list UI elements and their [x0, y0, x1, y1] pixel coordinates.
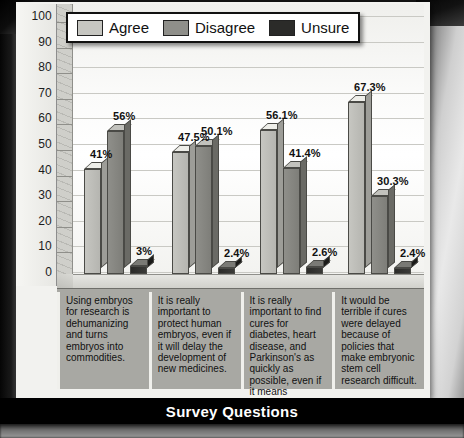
category-label-3: It is really important to find cures for…: [241, 292, 333, 389]
chart-plate: 1009080706050403020100 41%56%3%47.5%50.1…: [16, 2, 430, 398]
legend-item-unsure[interactable]: Unsure: [269, 19, 349, 36]
legend-item-agree[interactable]: Agree: [77, 19, 149, 36]
bar-front-face: [306, 267, 323, 274]
category-label-4: It would be terrible if cures were delay…: [332, 292, 424, 389]
bar-unsure-group-3[interactable]: [306, 267, 323, 274]
bar-unsure-group-2[interactable]: [218, 268, 235, 274]
bar-side-face: [212, 134, 219, 268]
page-left-shadow: [0, 0, 16, 398]
bar-disagree-group-3[interactable]: [283, 168, 300, 274]
bar-disagree-group-4[interactable]: [371, 196, 388, 274]
category-label-band: Using embryos for research is dehumanizi…: [57, 288, 424, 389]
y-axis-tick-60: 60: [38, 112, 52, 124]
category-label-2: It is really important to protect human …: [149, 292, 241, 389]
bar-unsure-group-4[interactable]: [394, 268, 411, 274]
y-axis-tick-90: 90: [38, 36, 52, 48]
bar-agree-group-4[interactable]: [348, 102, 365, 274]
data-label-unsure-group-3: 2.6%: [312, 246, 337, 258]
bar-unsure-group-1[interactable]: [130, 266, 147, 274]
bar-front-face: [371, 196, 388, 274]
bar-front-face: [348, 102, 365, 274]
sidewall-gridline: [57, 99, 72, 100]
page-bottom-blur: [0, 424, 464, 438]
legend-label-disagree: Disagree: [195, 19, 255, 36]
axis-side-wall: [57, 4, 73, 286]
legend-label-agree: Agree: [109, 19, 149, 36]
data-label-unsure-group-2: 2.4%: [224, 247, 249, 259]
y-axis-tick-30: 30: [38, 189, 52, 201]
data-label-disagree-group-1: 56%: [113, 110, 135, 122]
y-axis-tick-40: 40: [38, 164, 52, 176]
legend-swatch-unsure: [269, 20, 295, 36]
bar-side-face: [124, 119, 131, 268]
bar-agree-group-1[interactable]: [84, 169, 101, 274]
y-axis-tick-50: 50: [38, 138, 52, 150]
bar-front-face: [394, 268, 411, 274]
bar-layer: 41%56%3%47.5%50.1%2.4%56.1%41.4%2.6%67.3…: [72, 4, 424, 288]
legend-swatch-disagree: [163, 20, 189, 36]
data-label-unsure-group-4: 2.4%: [400, 247, 425, 259]
sidewall-gridline: [57, 176, 72, 177]
bar-front-face: [218, 268, 235, 274]
data-label-agree-group-3: 56.1%: [266, 109, 298, 121]
chart-legend: AgreeDisagreeUnsure: [66, 12, 360, 43]
y-axis-tick-10: 10: [38, 240, 52, 252]
sidewall-gridline: [57, 227, 72, 228]
sidewall-gridline: [57, 73, 72, 74]
y-axis-tick-80: 80: [38, 61, 52, 73]
data-label-agree-group-1: 41%: [90, 148, 112, 160]
y-axis-tick-70: 70: [38, 87, 52, 99]
bar-front-face: [283, 168, 300, 274]
data-label-disagree-group-2: 50.1%: [201, 125, 233, 137]
bar-side-face: [300, 156, 307, 268]
bar-front-face: [260, 130, 277, 274]
bar-disagree-group-2[interactable]: [195, 146, 212, 274]
data-label-disagree-group-4: 30.3%: [377, 175, 409, 187]
sidewall-gridline: [57, 252, 72, 253]
data-label-agree-group-4: 67.3%: [354, 81, 386, 93]
bar-front-face: [172, 152, 189, 274]
legend-label-unsure: Unsure: [301, 19, 349, 36]
chart-floor-corner: [57, 274, 73, 288]
legend-item-disagree[interactable]: Disagree: [163, 19, 255, 36]
category-label-1: Using embryos for research is dehumanizi…: [57, 292, 149, 389]
bar-side-face: [388, 185, 395, 268]
y-axis-labels: 1009080706050403020100: [16, 4, 57, 286]
bar-agree-group-3[interactable]: [260, 130, 277, 274]
sidewall-gridline: [57, 48, 72, 49]
data-label-unsure-group-1: 3%: [136, 245, 152, 257]
bar-agree-group-2[interactable]: [172, 152, 189, 274]
legend-swatch-agree: [77, 20, 103, 36]
data-label-disagree-group-3: 41.4%: [289, 147, 321, 159]
sidewall-gridline: [57, 124, 72, 125]
bar-front-face: [195, 146, 212, 274]
y-axis-tick-100: 100: [31, 10, 52, 22]
bar-front-face: [84, 169, 101, 274]
y-axis-tick-0: 0: [45, 266, 52, 278]
y-axis-tick-20: 20: [38, 215, 52, 227]
sidewall-gridline: [57, 150, 72, 151]
sidewall-gridline: [57, 201, 72, 202]
x-axis-title: Survey Questions: [0, 398, 464, 424]
scanned-page: 1009080706050403020100 41%56%3%47.5%50.1…: [0, 0, 464, 438]
bar-front-face: [130, 266, 147, 274]
